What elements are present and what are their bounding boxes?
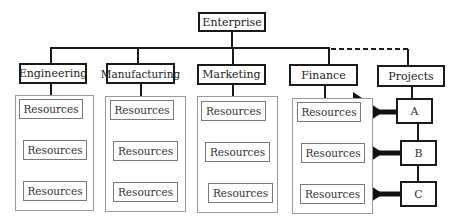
- resource-box: Resources: [23, 140, 87, 160]
- department-marketing: Marketing: [197, 64, 266, 85]
- resource-box: Resources: [110, 100, 174, 120]
- resource-box: Resources: [208, 183, 273, 203]
- resource-box: Resources: [19, 99, 83, 119]
- resource-box: Resources: [201, 101, 266, 121]
- projects-node: Projects: [377, 65, 445, 87]
- resource-box: Resources: [23, 181, 87, 201]
- department-engineering: Engineering: [19, 63, 87, 84]
- resource-box: Resources: [113, 182, 178, 202]
- project-c: C: [400, 181, 437, 207]
- resource-box: Resources: [300, 184, 365, 204]
- department-manufacturing: Manufacturing: [106, 63, 175, 84]
- project-b: B: [400, 140, 437, 166]
- resource-box: Resources: [205, 142, 270, 162]
- resource-box: Resources: [301, 143, 365, 163]
- project-a: A: [396, 98, 433, 124]
- resource-box: Resources: [297, 102, 361, 122]
- enterprise-node: Enterprise: [198, 12, 266, 32]
- department-finance: Finance: [289, 64, 358, 86]
- resource-box: Resources: [113, 141, 178, 161]
